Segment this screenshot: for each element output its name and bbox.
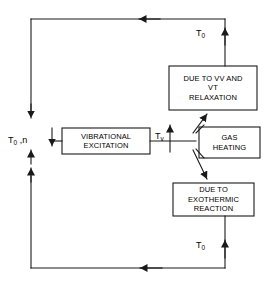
label-outlet-temperature-bottom: T0 (196, 240, 205, 250)
t0-top-subscript: 0 (202, 32, 206, 39)
diagram-canvas: VIBRATIONAL EXCITATION DUE TO VV AND VT … (0, 0, 271, 282)
t0-bottom-subscript: 0 (202, 244, 206, 251)
label-gas-heating: GAS HEATING (199, 127, 260, 158)
tv-symbol: T (155, 131, 161, 141)
t0-bottom-symbol: T (196, 240, 202, 250)
label-vibrational-excitation: VIBRATIONAL EXCITATION (62, 128, 150, 154)
label-vibrational-temperature: Tv (155, 131, 164, 141)
label-outlet-temperature-top: T0 (196, 28, 205, 38)
label-inlet-temperature: T0 ,n (8, 135, 27, 145)
inlet-suffix: ,n (17, 135, 27, 145)
label-vv-vt-relaxation: DUE TO VV AND VT RELAXATION (169, 66, 257, 110)
t0-top-symbol: T (196, 28, 202, 38)
inlet-subscript: 0 (14, 139, 18, 146)
inlet-symbol: T (8, 135, 14, 145)
tv-subscript: v (161, 135, 164, 142)
label-exothermic-reaction: DUE TO EXOTHERMIC REACTION (173, 183, 254, 216)
